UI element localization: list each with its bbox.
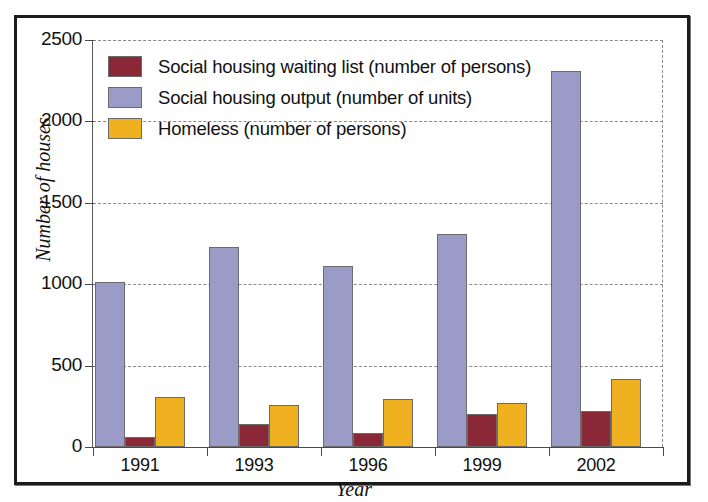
y-axis-tick	[85, 203, 94, 204]
y-axis-tick-label: 500	[0, 354, 82, 376]
gridline	[93, 40, 663, 41]
x-axis-tick	[663, 447, 664, 456]
legend-item-label: Homeless (number of persons)	[158, 118, 406, 140]
bar	[95, 282, 125, 447]
bar	[581, 411, 611, 447]
x-axis-tick-label: 1999	[422, 455, 542, 476]
legend-swatch-icon	[108, 56, 142, 77]
bar	[323, 266, 353, 447]
x-axis-tick-label: 2002	[536, 455, 656, 476]
legend-item: Social housing output (number of units)	[108, 83, 531, 112]
legend-swatch-icon	[108, 118, 142, 139]
plot-right-border	[662, 40, 663, 447]
x-axis-title: Year	[0, 478, 708, 501]
bar	[383, 399, 413, 447]
bar	[467, 414, 497, 447]
x-axis-tick-label: 1993	[194, 455, 314, 476]
legend-swatch-icon	[108, 87, 142, 108]
y-axis-tick	[85, 40, 94, 41]
bar	[209, 247, 239, 447]
y-axis-tick-label: 0	[0, 435, 82, 457]
legend-item: Social housing waiting list (number of p…	[108, 52, 531, 81]
bar	[125, 437, 155, 447]
y-axis-line	[92, 40, 93, 448]
chart-legend: Social housing waiting list (number of p…	[108, 52, 531, 145]
legend-item: Homeless (number of persons)	[108, 114, 531, 143]
y-axis-tick-label: 2500	[0, 28, 82, 50]
x-axis-tick-label: 1996	[308, 455, 428, 476]
legend-item-label: Social housing output (number of units)	[158, 87, 472, 109]
bar	[269, 405, 299, 447]
x-axis-line	[92, 447, 664, 448]
bar	[437, 234, 467, 447]
bar	[551, 71, 581, 447]
bar	[611, 379, 641, 447]
legend-item-label: Social housing waiting list (number of p…	[158, 56, 531, 78]
y-axis-tick	[85, 366, 94, 367]
bar	[239, 424, 269, 447]
x-axis-tick-label: 1991	[80, 455, 200, 476]
y-axis-tick	[85, 284, 94, 285]
bar	[353, 433, 383, 447]
chart-figure: 05001000150020002500 1991199319961999200…	[0, 0, 708, 502]
bar	[497, 403, 527, 447]
y-axis-title: Number of houses	[32, 75, 55, 305]
y-axis-tick	[85, 121, 94, 122]
bar	[155, 397, 185, 447]
